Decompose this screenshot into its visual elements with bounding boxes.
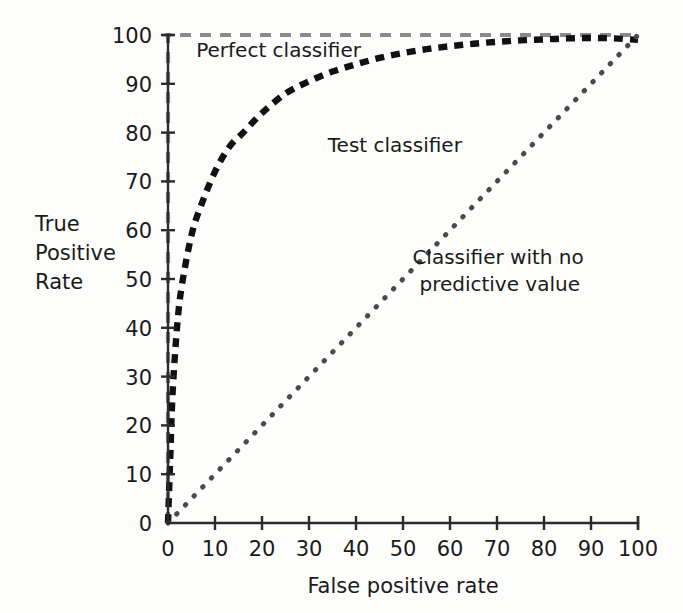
y-tick-label: 60 [125, 219, 152, 243]
y-tick-label: 10 [125, 463, 152, 487]
chart-annotation: Perfect classifier [196, 38, 362, 62]
chart-annotation: predictive value [419, 272, 580, 296]
x-tick-label: 90 [578, 537, 605, 561]
y-tick-label: 30 [125, 366, 152, 390]
y-tick-label: 80 [125, 122, 152, 146]
x-tick-label: 20 [249, 537, 276, 561]
x-tick-label: 60 [437, 537, 464, 561]
x-tick-label: 80 [531, 537, 558, 561]
x-tick-label: 70 [484, 537, 511, 561]
x-tick-label: 50 [390, 537, 417, 561]
y-axis-title-line: Rate [35, 270, 83, 294]
y-tick-label: 100 [112, 24, 152, 48]
y-axis-title-line: Positive [35, 241, 116, 265]
x-axis-title: False positive rate [307, 574, 498, 598]
y-tick-label: 0 [139, 512, 152, 536]
roc-curve-chart: 0102030405060708090100010203040506070809… [0, 0, 683, 613]
y-tick-label: 90 [125, 73, 152, 97]
y-tick-label: 20 [125, 414, 152, 438]
x-tick-label: 10 [202, 537, 229, 561]
y-tick-label: 70 [125, 170, 152, 194]
y-tick-label: 50 [125, 268, 152, 292]
y-axis-title-line: True [34, 212, 80, 236]
x-tick-label: 40 [343, 537, 370, 561]
x-tick-label: 30 [296, 537, 323, 561]
chart-annotation: Classifier with no [412, 245, 583, 269]
x-tick-label: 0 [161, 537, 174, 561]
chart-canvas: 0102030405060708090100010203040506070809… [0, 0, 683, 613]
chart-annotation: Test classifier [327, 133, 463, 157]
x-tick-label: 100 [618, 537, 658, 561]
annotations-layer: Perfect classifierTest classifierClassif… [196, 38, 584, 296]
y-tick-label: 40 [125, 317, 152, 341]
